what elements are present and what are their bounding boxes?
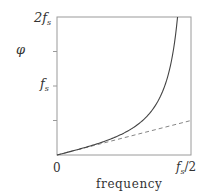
svg-text:fs/2: fs/2 [175, 160, 196, 176]
y-ticks [53, 52, 57, 121]
y-tick-label-2fs: 2fs [33, 10, 51, 27]
solid-warped-curve [57, 17, 178, 155]
y-tick-label-fs: fs [39, 76, 49, 93]
y-axis-label: φ [16, 42, 26, 57]
svg-text:2fs: 2fs [33, 10, 51, 27]
x-tick-label-zero: 0 [53, 161, 61, 175]
svg-text:fs: fs [39, 76, 49, 93]
x-tick-label-fs-half: fs/2 [175, 160, 196, 176]
chart: φ 2fs fs 0 fs/2 frequency [0, 0, 207, 191]
x-axis-label: frequency [96, 177, 162, 191]
plot-frame [57, 17, 191, 155]
